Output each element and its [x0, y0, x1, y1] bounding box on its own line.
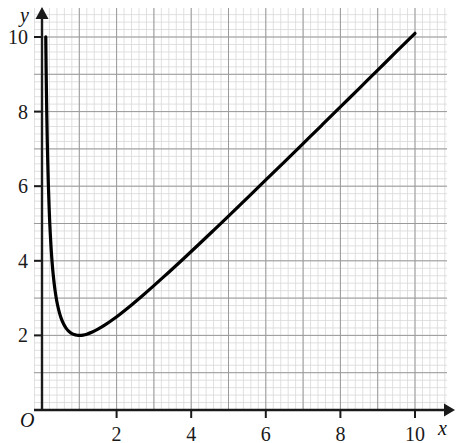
- axis-tick-marks: [34, 37, 415, 418]
- x-tick-label-4: 4: [171, 424, 211, 443]
- y-axis-label: y: [20, 5, 29, 25]
- x-axis-arrowhead: [444, 404, 455, 417]
- x-tick-label-2: 2: [97, 424, 137, 443]
- x-axis-label: x: [438, 418, 447, 438]
- y-tick-label-10: 10: [0, 27, 28, 47]
- x-tick-label-10: 10: [395, 424, 435, 443]
- y-tick-label-4: 4: [0, 251, 28, 271]
- coordinate-plane: [0, 0, 458, 443]
- axis-lines: [34, 7, 455, 417]
- y-tick-label-6: 6: [0, 176, 28, 196]
- y-tick-label-2: 2: [0, 325, 28, 345]
- x-tick-label-8: 8: [320, 424, 360, 443]
- y-tick-label-8: 8: [0, 102, 28, 122]
- y-axis-arrowhead: [36, 7, 49, 19]
- origin-label: O: [20, 410, 34, 430]
- x-tick-label-6: 6: [246, 424, 286, 443]
- grid-minor-lines: [34, 8, 447, 410]
- function-curve: [46, 33, 415, 335]
- graph-figure: y x O 246810 246810: [0, 0, 458, 443]
